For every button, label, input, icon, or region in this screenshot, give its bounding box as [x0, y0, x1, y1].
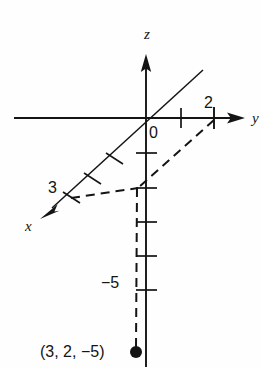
- point-coordinate-label: (3, 2, −5): [40, 344, 104, 360]
- y-axis-label: y: [252, 111, 259, 126]
- x-tick-label-3: 3: [48, 180, 57, 196]
- y-tick-label-2: 2: [204, 95, 213, 111]
- x-axis-label: x: [25, 219, 32, 234]
- z-tick-label-neg5: −5: [101, 275, 119, 291]
- construction-lines: [71, 120, 214, 348]
- dashed-line-x-to-corner: [71, 188, 138, 198]
- dashed-line-corner-to-point: [136, 188, 137, 348]
- plotted-point-marker: [130, 346, 142, 358]
- x-axis-arrowhead: [40, 204, 59, 219]
- axes-drawing: [0, 0, 261, 367]
- z-axis-label: z: [144, 27, 150, 42]
- x-axis: [40, 70, 203, 219]
- coordinate-diagram: z y x 0 2 3 −5 (3, 2, −5): [0, 0, 261, 367]
- z-axis: [136, 54, 157, 367]
- origin-label: 0: [149, 125, 158, 141]
- x-axis-line: [52, 70, 203, 208]
